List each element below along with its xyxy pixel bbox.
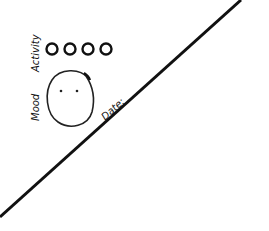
activity-circle-2[interactable] bbox=[65, 44, 76, 55]
activity-circle-3[interactable] bbox=[83, 44, 94, 55]
journal-sketch: Activity Mood Date: bbox=[0, 0, 269, 231]
activity-circles bbox=[47, 44, 112, 55]
mood-face-icon bbox=[47, 71, 93, 126]
right-eye-icon bbox=[76, 90, 79, 93]
left-eye-icon bbox=[60, 90, 63, 93]
activity-label: Activity bbox=[30, 34, 41, 72]
activity-circle-1[interactable] bbox=[47, 44, 58, 55]
activity-circle-4[interactable] bbox=[101, 44, 112, 55]
mood-label: Mood bbox=[30, 94, 41, 121]
